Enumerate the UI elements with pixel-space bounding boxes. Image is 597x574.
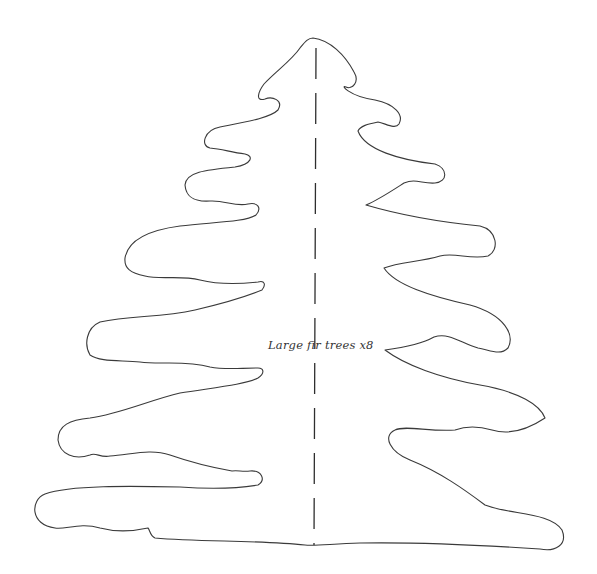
fir-tree-outline (35, 38, 564, 550)
fir-tree-outline-drawing (0, 0, 597, 574)
template-canvas: Large fir trees x8 (0, 0, 597, 574)
template-label: Large fir trees x8 (268, 338, 374, 352)
fold-line (314, 48, 316, 545)
